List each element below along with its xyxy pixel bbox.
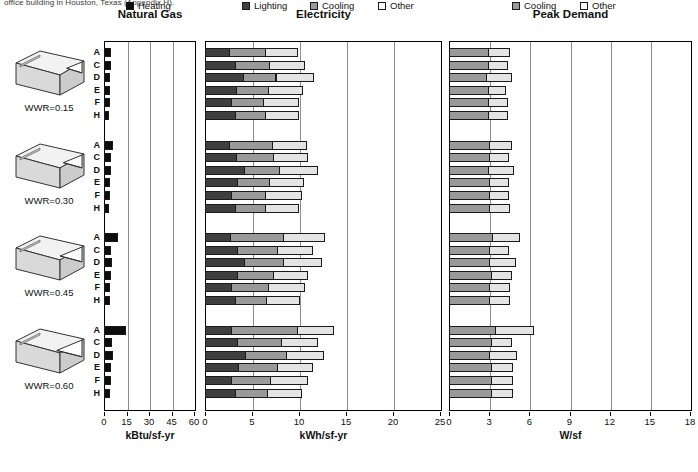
bar-row bbox=[450, 326, 691, 335]
legend-swatch-other bbox=[378, 2, 386, 10]
row-label-a: A bbox=[84, 326, 100, 335]
bar-segment-lighting bbox=[205, 178, 238, 187]
bar-segment-lighting bbox=[205, 376, 232, 385]
bar-row bbox=[450, 376, 691, 385]
bar-row bbox=[105, 326, 195, 335]
bar-row bbox=[105, 338, 195, 347]
axis-peak-demand: 0369121518W/sf bbox=[449, 412, 692, 442]
bar-segment-heating bbox=[104, 389, 110, 398]
bar-segment-other bbox=[488, 61, 508, 70]
building-thumbnail-wwr-0-15: WWR=0.15 bbox=[6, 45, 92, 113]
axis-natural-gas: 015304560kBtu/sf-yr bbox=[104, 412, 196, 442]
bar-row bbox=[450, 61, 691, 70]
bar-segment-cooling bbox=[449, 351, 490, 360]
axis-tick-label: 12 bbox=[595, 416, 625, 427]
bar-row bbox=[105, 271, 195, 280]
bar-row bbox=[450, 389, 691, 398]
bar-segment-cooling bbox=[237, 246, 278, 255]
wwr-label: WWR=0.15 bbox=[6, 102, 92, 113]
bar-segment-other bbox=[273, 271, 309, 280]
bar-row bbox=[206, 141, 441, 150]
row-label-f: F bbox=[84, 376, 100, 385]
legend-label: Other bbox=[390, 0, 414, 11]
bar-segment-cooling bbox=[449, 326, 496, 335]
bar-row bbox=[105, 351, 195, 360]
bar-segment-other bbox=[276, 73, 315, 82]
chart-title-peak-demand: Peak Demand bbox=[449, 8, 692, 20]
bar-row bbox=[206, 389, 441, 398]
legend-item-lighting: Lighting bbox=[242, 0, 287, 11]
bar-segment-other bbox=[281, 338, 318, 347]
bar-row bbox=[105, 204, 195, 213]
bar-segment-cooling bbox=[449, 338, 492, 347]
bar-segment-cooling bbox=[449, 283, 490, 292]
bar-row bbox=[206, 376, 441, 385]
bar-row bbox=[450, 111, 691, 120]
bar-segment-cooling bbox=[236, 86, 269, 95]
bar-row bbox=[206, 338, 441, 347]
legend-label: Other bbox=[592, 0, 616, 11]
wwr-label: WWR=0.45 bbox=[6, 287, 92, 298]
bar-segment-other bbox=[489, 283, 510, 292]
bar-segment-heating bbox=[104, 338, 112, 347]
bar-row bbox=[206, 233, 441, 242]
bar-row bbox=[206, 296, 441, 305]
bar-row bbox=[450, 283, 691, 292]
bar-segment-heating bbox=[104, 283, 110, 292]
bar-segment-other bbox=[279, 166, 318, 175]
bar-segment-lighting bbox=[205, 204, 236, 213]
bar-row bbox=[105, 376, 195, 385]
bar-row bbox=[105, 296, 195, 305]
bar-segment-cooling bbox=[449, 141, 490, 150]
bar-row bbox=[105, 111, 195, 120]
bar-row bbox=[105, 48, 195, 57]
bar-segment-heating bbox=[104, 351, 113, 360]
row-label-c: C bbox=[84, 338, 100, 347]
bar-segment-other bbox=[489, 258, 515, 267]
bar-row bbox=[206, 73, 441, 82]
building-thumbnail-wwr-0-60: WWR=0.60 bbox=[6, 323, 92, 391]
row-label-h: H bbox=[84, 389, 100, 398]
bar-row bbox=[450, 246, 691, 255]
bar-row bbox=[206, 61, 441, 70]
bar-row bbox=[450, 258, 691, 267]
bar-row bbox=[105, 233, 195, 242]
row-label-f: F bbox=[84, 98, 100, 107]
bar-row bbox=[450, 191, 691, 200]
bar-row bbox=[450, 166, 691, 175]
building-box-graphic bbox=[6, 138, 92, 194]
axis-tick-label: 5 bbox=[237, 416, 267, 427]
bar-segment-heating bbox=[104, 153, 111, 162]
bar-segment-other bbox=[286, 351, 325, 360]
axis-tick-label: 10 bbox=[284, 416, 314, 427]
bar-segment-other bbox=[268, 283, 305, 292]
bar-row bbox=[450, 204, 691, 213]
bar-segment-other bbox=[265, 111, 299, 120]
bar-segment-other bbox=[267, 389, 302, 398]
bar-row bbox=[206, 283, 441, 292]
bar-row bbox=[105, 258, 195, 267]
bar-segment-other bbox=[263, 98, 299, 107]
legend-swatch-other bbox=[580, 2, 588, 10]
row-label-d: D bbox=[84, 73, 100, 82]
bar-segment-other bbox=[277, 363, 313, 372]
bar-segment-cooling bbox=[449, 178, 490, 187]
bar-segment-lighting bbox=[205, 48, 230, 57]
bar-segment-cooling bbox=[449, 258, 490, 267]
chart-panel-natural-gas bbox=[104, 41, 196, 411]
row-label-d: D bbox=[84, 258, 100, 267]
bar-segment-heating bbox=[104, 111, 109, 120]
bar-segment-cooling bbox=[449, 246, 490, 255]
bar-row bbox=[450, 296, 691, 305]
bar-segment-other bbox=[495, 326, 535, 335]
bar-segment-cooling bbox=[231, 98, 264, 107]
axis-tick-label: 3 bbox=[474, 416, 504, 427]
bar-row bbox=[450, 271, 691, 280]
bar-row bbox=[105, 73, 195, 82]
bar-segment-cooling bbox=[449, 376, 492, 385]
bar-segment-lighting bbox=[205, 363, 239, 372]
bar-segment-cooling bbox=[231, 191, 266, 200]
bar-segment-lighting bbox=[205, 296, 236, 305]
bar-segment-cooling bbox=[235, 111, 266, 120]
legend-swatch-lighting bbox=[242, 2, 250, 10]
